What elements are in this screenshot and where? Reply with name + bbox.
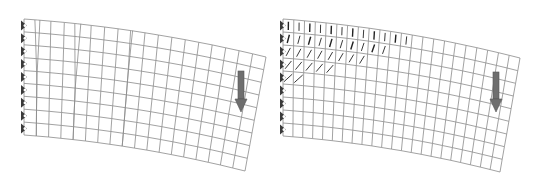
crack-stroke <box>340 40 343 48</box>
crack-stroke <box>363 30 364 38</box>
mesh-column-line <box>382 31 391 147</box>
crack-face-line <box>36 20 40 136</box>
mesh-column-line <box>98 27 105 143</box>
support-group <box>21 20 27 133</box>
mesh-column-line <box>323 23 327 140</box>
crack-stroke <box>328 52 333 60</box>
mesh-column-line <box>411 37 423 153</box>
support-hinge-dot <box>24 127 27 130</box>
support-hinge-dot <box>283 24 286 27</box>
mesh-row-line <box>24 19 266 57</box>
mesh-column-line <box>208 48 226 163</box>
mesh-column-line <box>245 57 266 171</box>
crack-stroke <box>285 61 291 69</box>
crack-stroke <box>286 48 290 56</box>
arrow-head <box>235 99 247 112</box>
mesh-row-line <box>24 58 259 95</box>
mesh-row-line <box>283 84 509 121</box>
crack-stroke <box>385 33 386 41</box>
mesh-column-line <box>49 21 51 137</box>
mesh-row-line <box>24 32 264 70</box>
mesh-column-line <box>184 42 199 157</box>
crack-stroke <box>349 55 354 63</box>
mesh-column-line <box>110 29 118 145</box>
support-hinge-dot <box>283 89 286 92</box>
mesh-column-line <box>293 20 294 137</box>
mesh-row-line <box>24 45 261 83</box>
mesh-column-line <box>332 24 337 141</box>
crack-stroke <box>298 36 300 44</box>
crack-stroke <box>316 64 323 72</box>
crack-face-line <box>73 24 81 140</box>
mesh-row-line <box>283 71 511 109</box>
crack-stroke <box>330 39 332 47</box>
support-hinge-dot <box>283 63 286 66</box>
crack-face-line <box>122 31 132 146</box>
crack-stroke <box>360 56 365 64</box>
crack-stroke <box>383 46 386 54</box>
mesh-row-line <box>283 97 507 134</box>
mesh-column-line <box>171 40 185 155</box>
support-hinge-dot <box>283 76 286 79</box>
crack-stroke <box>339 53 344 61</box>
support-hinge-dot <box>24 88 27 91</box>
support-hinge-dot <box>283 102 286 105</box>
crack-stroke <box>318 51 322 59</box>
fem-mesh-figure <box>0 0 536 180</box>
mesh-grid <box>24 19 266 171</box>
mesh-column-line <box>421 39 434 154</box>
arrow-shaft <box>493 72 499 99</box>
mesh-column-line <box>303 21 305 138</box>
support-hinge-dot <box>283 37 286 40</box>
mesh-row-line <box>283 19 520 58</box>
mesh-column-line <box>342 25 347 141</box>
panel-right-smeared-crack-mesh <box>280 19 520 172</box>
crack-stroke <box>297 49 301 57</box>
crack-stroke <box>361 43 364 51</box>
crack-stroke <box>327 65 334 73</box>
crack-stroke <box>372 44 375 52</box>
support-hinge-dot <box>24 101 27 104</box>
support-hinge-dot <box>24 37 27 40</box>
mesh-column-line <box>470 50 487 165</box>
crack-stroke <box>351 42 354 50</box>
mesh-row-line <box>283 123 502 159</box>
mesh-column-line <box>159 37 172 152</box>
support-hinge-dot <box>24 24 27 27</box>
mesh-column-line <box>461 48 477 163</box>
support-hinge-dot <box>283 128 286 131</box>
mesh-row-line <box>283 45 516 83</box>
mesh-column-line <box>135 33 146 148</box>
mesh-column-line <box>85 25 91 141</box>
mesh-column-line <box>431 41 445 156</box>
mesh-column-line <box>313 22 316 139</box>
figure <box>0 0 536 180</box>
mesh-row-line <box>283 32 518 71</box>
support-hinge-dot <box>24 63 27 66</box>
crack-stroke <box>287 35 289 43</box>
arrow-shaft <box>238 71 244 99</box>
mesh-row-line <box>283 110 504 147</box>
mesh-column-line <box>147 35 159 150</box>
crack-stroke <box>406 36 407 44</box>
crack-stroke <box>307 50 311 58</box>
mesh-column-line <box>196 45 212 160</box>
crack-stroke <box>395 35 396 43</box>
mesh-column-line <box>401 35 412 151</box>
crack-stroke <box>374 31 375 39</box>
mesh-column-line <box>500 58 520 172</box>
mesh-row-line <box>24 109 250 146</box>
crack-stroke <box>306 63 312 71</box>
support-hinge-dot <box>24 76 27 79</box>
support-group <box>280 21 286 135</box>
mesh-row-line <box>24 71 257 108</box>
support-hinge-dot <box>283 115 286 118</box>
crack-stroke <box>296 62 302 70</box>
mesh-row-line <box>283 136 500 172</box>
crack-stroke <box>308 37 310 45</box>
mesh-column-line <box>392 33 402 149</box>
mesh-grid <box>283 19 520 172</box>
support-hinge-dot <box>24 114 27 117</box>
support-hinge-dot <box>24 50 27 53</box>
crack-stroke <box>294 75 302 83</box>
